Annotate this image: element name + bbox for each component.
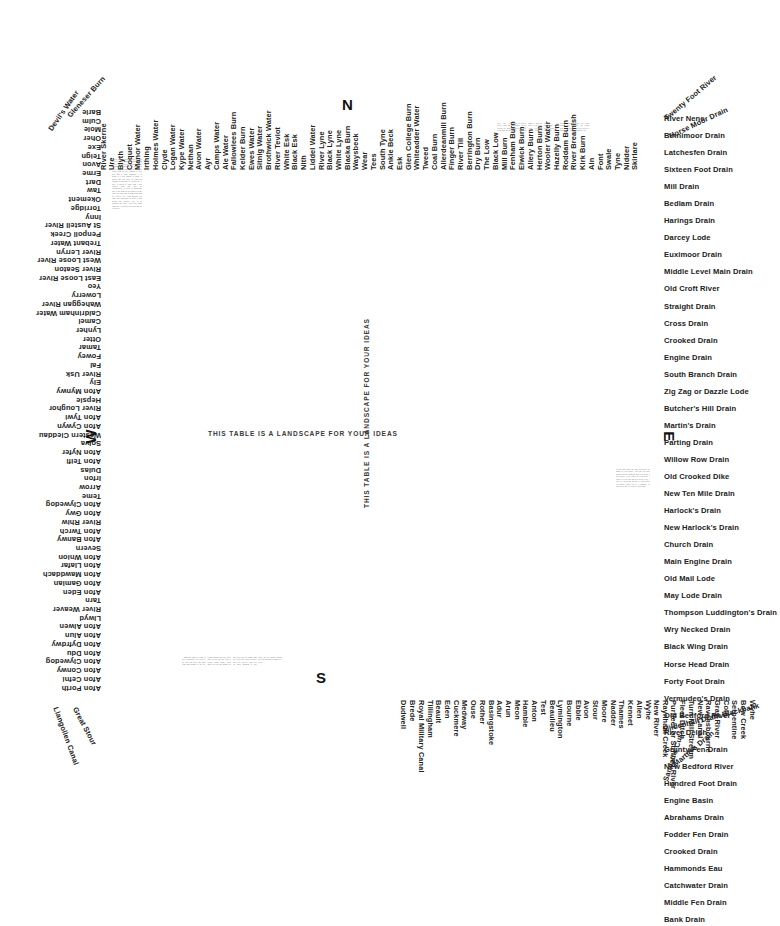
river-name-south-26: Royal Military Canal: [417, 700, 425, 773]
drain-name-east-17: Butcher's Hill Drain: [664, 400, 780, 417]
river-name-north-44: The Low: [483, 139, 491, 170]
drain-name-east-42: Fodder Fen Drain: [664, 826, 780, 843]
river-name-north-23: Nith: [300, 155, 308, 170]
river-name-west-52: Afon Llafar: [61, 561, 101, 569]
river-name-west-54: Afon Gamlan: [54, 579, 101, 587]
river-name-south-right-7: Gray River: [713, 700, 721, 739]
river-name-west-41: Dulas: [80, 466, 101, 474]
river-name-north-59: Tyne: [614, 153, 622, 170]
river-name-south-11: Beaulieu: [548, 700, 556, 732]
river-name-west-25: Lynher: [76, 326, 101, 334]
body-text-northwest: See the large division of water that goe…: [112, 158, 142, 358]
river-name-north-30: Wear: [361, 152, 369, 170]
river-name-south-23: Eden: [443, 700, 451, 719]
drain-name-east-12: Cross Drain: [664, 315, 780, 332]
drain-name-east-6: Harings Drain: [664, 212, 780, 229]
drain-name-east-33: Forty Foot Drain: [664, 673, 780, 690]
river-name-west-50: Severn: [76, 544, 101, 552]
river-name-north-9: Kype Water: [178, 128, 186, 170]
river-name-west-14: Penpoll Creek: [50, 230, 101, 238]
river-name-south-15: Meon: [513, 700, 521, 720]
river-name-north-19: Brothwick Water: [265, 110, 273, 170]
river-name-south-13: Anton: [530, 700, 538, 722]
east-drain-list: River NeneBinnimoor DrainLatchesfen Drai…: [664, 110, 780, 926]
drain-name-east-30: Wry Necked Drain: [664, 621, 780, 638]
river-name-west-9: Taw: [87, 186, 101, 194]
river-name-north-37: Tweed: [422, 147, 430, 170]
river-name-south-0: Wyhe: [644, 700, 652, 720]
drain-name-east-5: Bedlam Drain: [664, 195, 780, 212]
drain-name-east-20: Willow Row Drain: [664, 451, 780, 468]
compass-east: E: [661, 431, 678, 442]
river-name-west-57: River Weaver: [53, 605, 101, 613]
river-name-north-41: River Till: [457, 138, 465, 170]
drain-name-east-25: Church Drain: [664, 536, 780, 553]
drain-name-east-39: Hundred Foot Drain: [664, 775, 780, 792]
river-name-west-59: Afon Alwen: [59, 622, 101, 630]
river-name-west-53: Afon Mawddach: [43, 570, 101, 578]
river-name-west-13: St Austell River: [45, 221, 101, 229]
river-name-north-24: Liddel Water: [309, 124, 317, 170]
river-name-south-right-1: Raynham Creek: [661, 700, 669, 757]
river-name-west-39: Afon Nyfer: [62, 448, 101, 456]
drain-name-east-0: River Nene: [664, 110, 780, 127]
river-name-south-16: Arun: [504, 700, 512, 718]
drain-name-east-16: Zig Zag or Dazzle Lode: [664, 383, 780, 400]
river-name-north-27: White Lyne: [335, 130, 343, 170]
drain-name-east-46: Middle Fen Drain: [664, 894, 780, 911]
river-name-west-56: Tarn: [85, 596, 101, 604]
river-name-south-10: Lymington: [556, 700, 564, 739]
river-name-south-right-2: Purfleet or Stifford River: [669, 700, 677, 789]
river-name-west-58: Llwyd: [79, 614, 101, 622]
river-name-south-right-9: Serpentine: [730, 700, 738, 739]
river-name-south-right-5: New Canal: [696, 700, 704, 738]
drain-name-east-11: Straight Drain: [664, 298, 780, 315]
river-name-south-right-6: Ravensbourne: [704, 700, 712, 753]
river-name-west-21: Lowerry: [71, 291, 101, 299]
river-name-north-13: Camps Water: [213, 122, 221, 170]
drain-name-east-10: Old Croft River: [664, 280, 780, 297]
river-name-west-55: Afon Eden: [63, 588, 101, 596]
river-name-west-6: Avon: [82, 160, 101, 168]
river-name-west-46: Afon Gwy: [66, 509, 101, 517]
river-name-south-9: Bourne: [565, 700, 573, 727]
river-name-west-44: Teme: [82, 492, 101, 500]
river-name-west-3: Oher: [83, 134, 101, 142]
river-name-west-29: Fal: [90, 361, 101, 369]
river-name-north-31: Tees: [370, 153, 378, 170]
slogan-vertical: THIS TABLE IS A LANDSCAPE FOR YOUR IDEAS: [363, 318, 370, 508]
river-name-south-27: Brede: [408, 700, 416, 722]
river-name-north-16: Kelder Burn: [239, 126, 247, 170]
drain-name-east-40: Engine Basin: [664, 792, 780, 809]
river-name-south-right-0: New River: [652, 700, 660, 737]
drain-name-east-43: Crooked Drain: [664, 843, 780, 860]
drain-name-east-9: Middle Level Main Drain: [664, 263, 780, 280]
drain-name-east-22: New Ten Mile Drain: [664, 485, 780, 502]
river-name-south-18: Basingstoke: [487, 700, 495, 745]
drain-name-east-23: Harlock's Drain: [664, 502, 780, 519]
river-name-south-25: Tillingham: [426, 700, 434, 738]
river-name-south-12: Test: [539, 700, 547, 715]
drain-name-east-32: Horse Head Drain: [664, 656, 780, 673]
river-name-south-6: Stour: [591, 700, 599, 720]
drain-name-east-7: Darcey Lode: [664, 229, 780, 246]
river-name-south-22: Cuckmere: [452, 700, 460, 737]
river-name-south-2: Kennet: [626, 700, 634, 726]
river-name-west-11: Torridge: [71, 204, 101, 212]
river-name-west-40: Afon Teifi: [66, 457, 101, 465]
drain-name-east-2: Latchesfen Drain: [664, 144, 780, 161]
river-name-south-20: Ouse: [469, 700, 477, 719]
river-name-south-4: Nadder: [609, 700, 617, 726]
river-name-south-5: Moore: [600, 700, 608, 723]
compass-north: N: [342, 96, 353, 113]
river-name-west-30: River Usk: [66, 370, 101, 378]
river-name-south-right-3: Fleet Ditch: [678, 700, 686, 739]
river-name-south-right-11: Wyhe: [748, 700, 756, 720]
river-name-west-16: River Lerryn: [56, 248, 101, 256]
drain-name-east-15: South Branch Drain: [664, 366, 780, 383]
drain-name-east-18: Martin's Drain: [664, 417, 780, 434]
drain-name-east-21: Old Crooked Dike: [664, 468, 780, 485]
river-name-south-19: Rother: [478, 700, 486, 725]
river-name-west-31: Ely: [90, 378, 101, 386]
